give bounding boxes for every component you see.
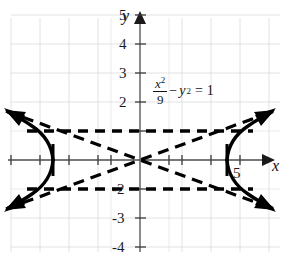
y-tick-label-4: 4	[119, 37, 127, 52]
y-tick-label-minus-2: -2	[112, 182, 125, 197]
branch-arrow-lower-left	[4, 194, 25, 212]
branch-arrow-lower-right	[255, 194, 276, 212]
equation-numerator-exponent: 2	[161, 75, 166, 85]
branch-arrow-upper-left	[4, 108, 25, 126]
equation-right-side: 1	[207, 84, 214, 98]
equation-annotation: x2 9 − y2 = 1	[152, 76, 215, 106]
equation-y-variable: y	[179, 84, 185, 98]
plot-canvas	[0, 0, 287, 254]
branch-arrow-upper-right	[255, 108, 276, 126]
equation-numerator: x2	[153, 76, 167, 91]
x-axis-label: x	[272, 158, 279, 174]
x-tick-label-5: 5	[233, 166, 241, 181]
equation-y-exponent: 2	[186, 87, 191, 96]
y-tick-label-2: 2	[119, 95, 127, 110]
y-axis-arrowhead	[134, 11, 146, 24]
equation-denominator: 9	[155, 92, 166, 106]
hyperbola-figure: 5 4 3 2 -2 -3 -4 5 y x x2 9 − y2 = 1	[0, 0, 287, 254]
y-tick-label-minus-4: -4	[112, 240, 125, 254]
y-tick-label-minus-3: -3	[112, 211, 125, 226]
axis-lines	[8, 14, 264, 252]
equation-minus-sign: −	[169, 84, 177, 98]
equation-equals-sign: =	[195, 84, 203, 98]
y-axis-label: y	[122, 8, 129, 24]
equation-fraction: x2 9	[153, 76, 167, 106]
y-tick-label-3: 3	[119, 66, 127, 81]
